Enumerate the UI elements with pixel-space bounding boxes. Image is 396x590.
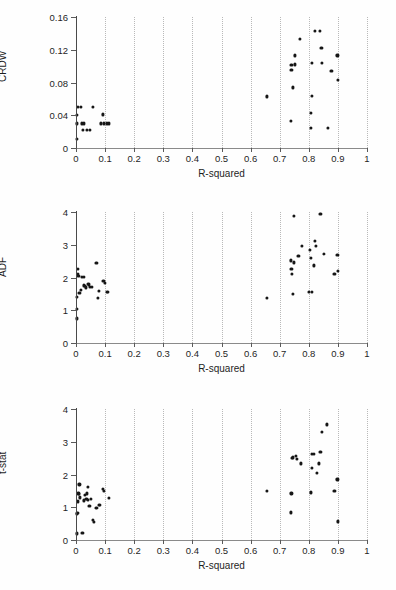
y-tick-label: 0.04 <box>50 110 69 121</box>
y-tick-label: 0 <box>63 535 68 546</box>
gridline-vertical <box>192 17 193 148</box>
gridline-vertical <box>192 212 193 343</box>
x-tick-label: 0 <box>73 153 78 164</box>
data-point <box>95 261 98 264</box>
data-point <box>313 239 316 242</box>
x-tick <box>192 148 193 152</box>
x-tick <box>222 540 223 544</box>
x-tick <box>251 343 252 347</box>
data-point <box>320 47 323 50</box>
gridline-vertical <box>222 212 223 343</box>
y-axis-title: t-stat <box>0 452 8 474</box>
y-tick <box>71 50 76 51</box>
x-tick <box>134 343 135 347</box>
x-tick-label: 0.2 <box>128 545 141 556</box>
data-point <box>89 497 92 500</box>
data-point <box>88 128 91 131</box>
data-point <box>321 430 324 433</box>
panel-adf: 00.10.20.30.40.50.60.70.80.9101234R-squa… <box>0 195 396 390</box>
gridline-vertical <box>280 212 281 343</box>
data-point <box>78 496 81 499</box>
data-point <box>336 78 339 81</box>
y-tick <box>71 475 76 476</box>
y-axis-line <box>76 211 77 344</box>
y-tick-label: 4 <box>63 207 68 218</box>
data-point <box>78 292 81 295</box>
data-point <box>319 212 322 215</box>
x-tick-label: 0.1 <box>98 153 111 164</box>
data-point <box>293 214 296 217</box>
gridline-vertical <box>134 17 135 148</box>
y-tick-label: 4 <box>63 404 68 415</box>
x-tick <box>280 148 281 152</box>
x-tick-label: 1 <box>364 348 369 359</box>
data-point <box>84 286 87 289</box>
x-tick <box>105 540 106 544</box>
x-tick <box>76 540 77 544</box>
x-tick-label: 0.9 <box>331 153 344 164</box>
gridline-vertical <box>280 409 281 540</box>
gridline-vertical <box>251 409 252 540</box>
x-tick-label: 0.2 <box>128 348 141 359</box>
data-point <box>265 95 268 98</box>
x-tick <box>134 540 135 544</box>
x-tick-label: 0.7 <box>273 153 286 164</box>
data-point <box>79 105 82 108</box>
data-point <box>310 94 313 97</box>
x-tick <box>192 343 193 347</box>
y-tick-label: 1 <box>63 305 68 316</box>
x-tick-label: 0.7 <box>273 545 286 556</box>
x-tick-label: 0.6 <box>244 545 257 556</box>
data-point <box>314 244 317 247</box>
gridline-vertical <box>309 409 310 540</box>
data-point <box>333 489 336 492</box>
x-tick <box>163 540 164 544</box>
data-point <box>319 451 322 454</box>
data-point <box>312 453 315 456</box>
gridline-vertical <box>163 17 164 148</box>
gridline-vertical <box>338 212 339 343</box>
x-tick <box>163 148 164 152</box>
data-point <box>91 285 94 288</box>
y-tick-label: 0.08 <box>50 77 69 88</box>
x-tick-label: 0.8 <box>302 348 315 359</box>
y-tick <box>71 17 76 18</box>
data-point <box>295 457 298 460</box>
x-tick-label: 1 <box>364 545 369 556</box>
data-point <box>310 111 313 114</box>
data-point <box>311 61 314 64</box>
gridline-vertical <box>251 17 252 148</box>
gridline-vertical <box>105 17 106 148</box>
data-point <box>325 423 328 426</box>
data-point <box>289 511 292 514</box>
panel-crdw: 00.10.20.30.40.50.60.70.80.9100.040.080.… <box>0 0 396 195</box>
y-tick <box>71 343 76 344</box>
data-point <box>107 122 110 125</box>
gridline-vertical <box>251 212 252 343</box>
y-tick <box>71 212 76 213</box>
data-point <box>333 272 336 275</box>
x-tick-label: 0.7 <box>273 348 286 359</box>
x-tick-label: 0.3 <box>157 153 170 164</box>
x-tick <box>251 148 252 152</box>
data-point <box>96 297 99 300</box>
data-point <box>81 531 84 534</box>
data-point <box>293 54 296 57</box>
data-point <box>98 504 101 507</box>
data-point <box>291 292 294 295</box>
data-point <box>88 504 91 507</box>
y-tick <box>71 278 76 279</box>
data-point <box>300 244 303 247</box>
gridline-vertical <box>338 17 339 148</box>
y-tick <box>71 310 76 311</box>
data-point <box>290 267 293 270</box>
x-tick-label: 0.3 <box>157 545 170 556</box>
y-axis-line <box>76 16 77 149</box>
data-point <box>91 105 94 108</box>
x-tick-label: 0.1 <box>98 348 111 359</box>
data-point <box>298 38 301 41</box>
data-point <box>290 273 293 276</box>
x-tick <box>367 343 368 347</box>
x-tick <box>309 148 310 152</box>
data-point <box>322 252 325 255</box>
